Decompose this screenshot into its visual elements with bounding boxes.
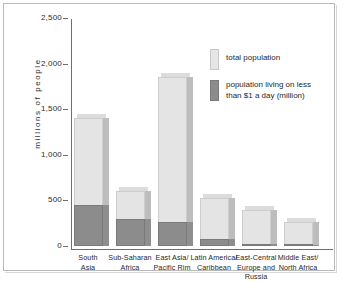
x-axis-line (71, 249, 333, 250)
bar-total-population (158, 77, 187, 246)
y-axis-tick-label: 2,000 (2, 60, 62, 68)
bar-total-population (242, 210, 271, 246)
y-axis-tick (63, 155, 68, 156)
category-label-line1: South (78, 253, 97, 262)
bar-poverty-population (200, 239, 229, 246)
bar-side-face-total (145, 191, 151, 219)
legend-item-total-population: total population (210, 49, 336, 71)
bar-group (284, 218, 319, 246)
category-label-line2: Pacific Rim (153, 263, 190, 272)
legend-label-poverty-population: population living on less than $1 a day … (226, 80, 338, 101)
legend-label-poverty-line2: than $1 a day (million) (226, 91, 305, 100)
category-label-line2: Asia (81, 263, 95, 272)
bar-side-face-total (271, 210, 277, 244)
y-axis-tick-label: 1,000 (2, 151, 62, 159)
y-axis-tick-label: 1,500 (2, 105, 62, 113)
bar-side-face-total (229, 198, 235, 239)
category-label-line2: Caribbean (197, 263, 231, 272)
bar-poverty-population (116, 219, 145, 246)
bar-side-face-total (103, 118, 109, 205)
bar-side-face-poverty (313, 245, 319, 246)
y-axis-line (71, 19, 72, 250)
figure-frame: millions of people 05001,0001,5002,0002,… (3, 3, 335, 271)
y-axis-tick (63, 200, 68, 201)
bar-group (116, 187, 151, 246)
chart-legend: total population population living on le… (210, 49, 336, 111)
bar-side-face-total (187, 77, 193, 222)
bar-side-face-poverty (145, 219, 151, 246)
legend-label-poverty-line1: population living on less (226, 80, 311, 89)
bar-side-face-total (313, 222, 319, 245)
legend-item-poverty-population: population living on less than $1 a day … (210, 80, 336, 102)
bar-group (74, 114, 109, 246)
bar-poverty-population (242, 244, 271, 246)
y-axis-tick (63, 109, 68, 110)
bar-side-face-poverty (103, 205, 109, 246)
category-label-line2: Europe and Russia (237, 263, 275, 282)
legend-swatch-poverty-population (210, 80, 219, 101)
category-label-line1: East Asia/ (156, 253, 189, 262)
bar-poverty-population (74, 205, 103, 246)
bar-poverty-population (158, 222, 187, 246)
bar-group (200, 194, 235, 246)
legend-swatch-total-population (210, 49, 219, 70)
bar-side-face-poverty (229, 239, 235, 246)
bar-total-population (284, 222, 313, 246)
bar-side-face-poverty (271, 244, 277, 246)
x-axis-category-label: Middle East/North Africa (272, 253, 324, 272)
bar-group (242, 206, 277, 246)
category-label-line1: Middle East/ (278, 253, 319, 262)
category-label-line1: East-Central (235, 253, 276, 262)
y-axis-tick-label: 0 (2, 242, 62, 250)
y-axis-tick-label: 500 (2, 196, 62, 204)
bar-poverty-population (284, 244, 313, 246)
y-axis-tick-label: 2,500 (2, 14, 62, 22)
y-axis-tick (63, 18, 68, 19)
bar-side-face-poverty (187, 222, 193, 246)
y-axis-tick (63, 246, 68, 247)
bar-group (158, 73, 193, 246)
y-axis-tick (63, 64, 68, 65)
legend-label-total-population: total population (226, 53, 338, 64)
category-label-line2: Africa (121, 263, 140, 272)
category-label-line2: North Africa (279, 263, 318, 272)
